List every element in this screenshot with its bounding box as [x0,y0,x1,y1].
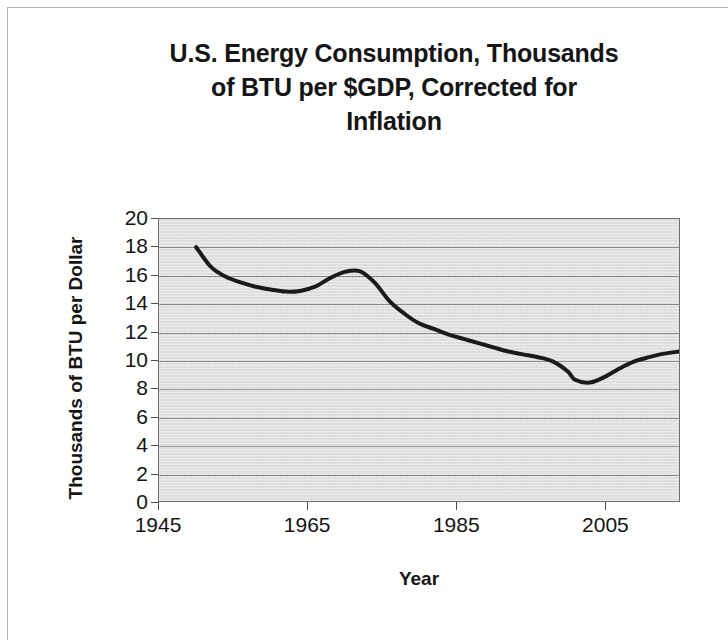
y-tick-mark-10 [151,360,158,361]
x-tick-mark-1985 [456,502,457,510]
y-tick-mark-20 [151,218,158,219]
y-tick-mark-6 [151,417,158,418]
y-tick-mark-16 [151,275,158,276]
y-tick-label-10: 10 [102,349,148,370]
y-tick-label-12: 12 [102,321,148,342]
chart-title-line-1: U.S. Energy Consumption, Thousands [64,36,724,70]
chart-title-line-2: of BTU per $GDP, Corrected for [64,70,724,104]
series-path-energy-consumption [196,247,679,382]
y-tick-mark-4 [151,445,158,446]
x-tick-label-2005: 2005 [565,514,645,535]
y-tick-label-2: 2 [102,463,148,484]
data-line-series [159,219,679,501]
y-tick-label-6: 6 [102,406,148,427]
scan-border-top [7,7,728,8]
y-tick-mark-8 [151,388,158,389]
y-tick-label-14: 14 [102,292,148,313]
y-tick-label-20: 20 [102,207,148,228]
x-tick-label-1985: 1985 [416,514,496,535]
plot-area [158,218,680,502]
chart-page: U.S. Energy Consumption, Thousands of BT… [0,0,728,640]
x-tick-label-1945: 1945 [118,514,198,535]
x-axis-title: Year [158,568,680,590]
y-tick-label-16: 16 [102,264,148,285]
y-tick-mark-2 [151,474,158,475]
scan-border-left [7,7,8,640]
y-tick-mark-12 [151,332,158,333]
y-axis-title: Thousands of BTU per Dollar [65,213,87,523]
y-tick-label-4: 4 [102,434,148,455]
chart-title-line-3: Inflation [64,104,724,138]
y-tick-mark-18 [151,246,158,247]
y-tick-label-18: 18 [102,235,148,256]
x-tick-mark-1965 [307,502,308,510]
chart-title: U.S. Energy Consumption, Thousands of BT… [64,36,724,138]
y-tick-label-0: 0 [102,491,148,512]
y-tick-label-8: 8 [102,377,148,398]
x-tick-mark-2005 [605,502,606,510]
x-tick-label-1965: 1965 [267,514,347,535]
y-tick-mark-14 [151,303,158,304]
x-tick-mark-1945 [158,502,159,510]
y-tick-mark-0 [151,502,158,503]
